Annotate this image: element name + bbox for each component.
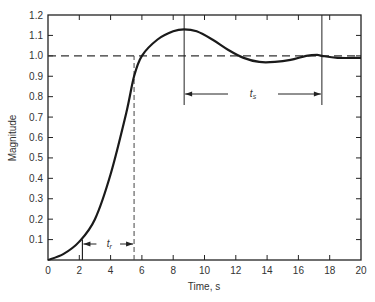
x-tick-label: 20: [355, 265, 367, 276]
x-tick-label: 8: [170, 265, 176, 276]
y-tick-label: 1.1: [29, 30, 43, 41]
rise-time-label: tr: [107, 238, 113, 250]
rise-time-subscript: r: [109, 243, 112, 250]
settling-time-subscript: s: [253, 93, 257, 100]
y-tick-label: 0.2: [29, 214, 43, 225]
x-tick-label: 16: [293, 265, 305, 276]
y-axis-label: Magnitude: [7, 114, 18, 161]
response-curve: [48, 29, 361, 260]
y-tick-label: 0.3: [29, 193, 43, 204]
y-tick-label: 1.0: [29, 50, 43, 61]
y-tick-label: 0.8: [29, 91, 43, 102]
x-tick-label: 4: [108, 265, 114, 276]
x-tick-label: 0: [45, 265, 51, 276]
settling-time-label: ts: [250, 88, 257, 100]
y-tick-label: 0.7: [29, 112, 43, 123]
plot-axes: 024681012141618200.10.20.30.40.50.60.70.…: [29, 10, 367, 277]
y-tick-label: 0.1: [29, 234, 43, 245]
plot-frame: [48, 15, 361, 260]
x-tick-label: 14: [262, 265, 274, 276]
rise-arrow-right-head: [126, 242, 133, 247]
x-tick-label: 12: [230, 265, 242, 276]
step-response-chart: 024681012141618200.10.20.30.40.50.60.70.…: [0, 0, 375, 302]
x-tick-label: 18: [324, 265, 336, 276]
settling-arrow-right-head: [314, 92, 321, 97]
x-tick-label: 6: [139, 265, 145, 276]
x-tick-label: 2: [77, 265, 83, 276]
settling-arrow-left-head: [185, 92, 192, 97]
x-axis-label: Time, s: [188, 281, 220, 292]
y-tick-label: 0.5: [29, 152, 43, 163]
x-tick-label: 10: [199, 265, 211, 276]
time-markers: [82, 15, 321, 260]
y-tick-label: 0.6: [29, 132, 43, 143]
rise-arrow-left-head: [83, 242, 90, 247]
annotations: trts: [83, 88, 320, 250]
y-tick-label: 1.2: [29, 10, 43, 21]
y-tick-label: 0.4: [29, 173, 43, 184]
y-tick-label: 0.9: [29, 71, 43, 82]
